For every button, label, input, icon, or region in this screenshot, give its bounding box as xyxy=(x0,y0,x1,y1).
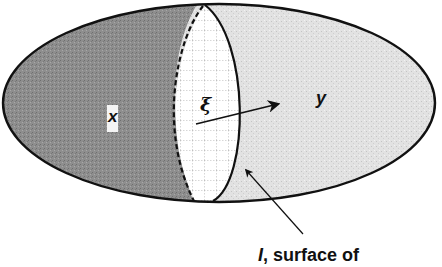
diagram-canvas xyxy=(0,0,442,267)
label-x: x xyxy=(108,107,117,127)
label-xi: ξ xyxy=(200,93,211,115)
caption-text: , surface of xyxy=(263,245,359,265)
left-region-x xyxy=(0,0,200,204)
label-y: y xyxy=(316,88,326,109)
caption-surface: I, surface of xyxy=(258,245,359,266)
